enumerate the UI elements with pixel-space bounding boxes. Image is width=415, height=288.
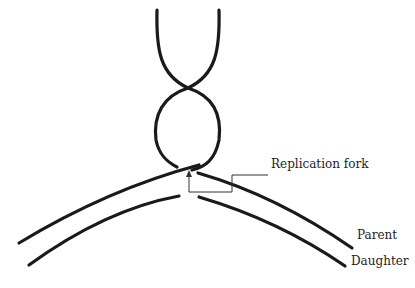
top-loop-left-arm (157, 10, 220, 170)
parent-label: Parent (357, 228, 397, 242)
top-loop-right-arm (155, 10, 219, 167)
daughter-strand-right (199, 197, 345, 266)
replication-diagram (0, 0, 415, 288)
parent-strand-right (198, 173, 352, 248)
daughter-strand-left (29, 196, 179, 265)
daughter-label: Daughter (351, 254, 409, 268)
replication-fork-label: Replication fork (271, 157, 368, 171)
parent-strand-left (19, 165, 199, 243)
